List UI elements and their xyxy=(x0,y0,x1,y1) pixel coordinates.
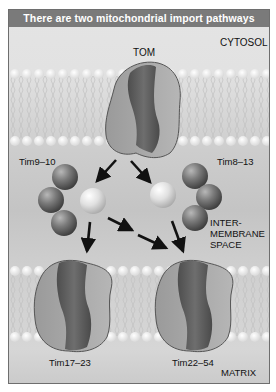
tim22-54-complex xyxy=(155,260,233,351)
substrate-sphere-right xyxy=(150,182,176,208)
label-intermembrane-line1: INTER- xyxy=(210,217,265,228)
tim9-10-complex xyxy=(38,164,78,236)
label-cytosol: CYTOSOL xyxy=(220,37,268,48)
diagram-canvas xyxy=(9,10,270,384)
label-intermembrane-space: INTER- MEMBRANE SPACE xyxy=(210,217,265,250)
substrate-sphere-left xyxy=(80,188,106,214)
tim17-23-complex xyxy=(34,260,112,351)
label-tim9-10: Tim9–10 xyxy=(19,156,56,167)
label-intermembrane-line2: MEMBRANE xyxy=(210,228,265,239)
label-tim22-54: Tim22–54 xyxy=(172,357,214,368)
label-tom: TOM xyxy=(133,47,155,58)
label-tim17-23: Tim17–23 xyxy=(49,357,91,368)
label-tim8-13: Tim8–13 xyxy=(217,156,254,167)
label-intermembrane-line3: SPACE xyxy=(210,239,265,250)
label-matrix: MATRIX xyxy=(221,367,256,378)
diagram-frame: There are two mitochondrial import pathw… xyxy=(8,9,270,384)
